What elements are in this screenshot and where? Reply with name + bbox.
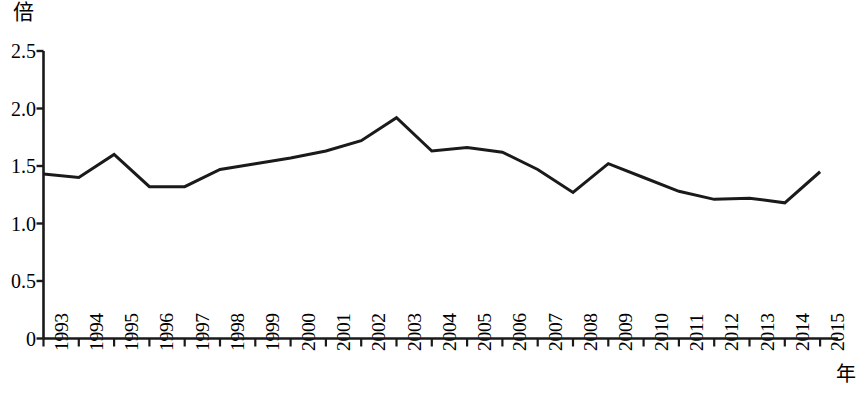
series-group: [44, 118, 821, 203]
data-series-line: [44, 118, 821, 203]
